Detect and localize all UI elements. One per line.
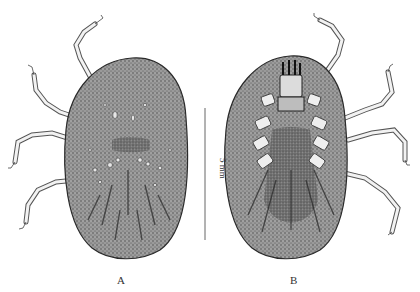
panel-label-b: B <box>290 274 297 286</box>
idiosoma-a <box>65 58 188 259</box>
figure-canvas <box>0 0 420 292</box>
tick-dorsal-view <box>8 15 188 259</box>
panel-label-a: A <box>117 274 125 286</box>
tick-ventral-view <box>225 13 410 259</box>
scale-bar-label: 5 mm <box>218 158 228 179</box>
